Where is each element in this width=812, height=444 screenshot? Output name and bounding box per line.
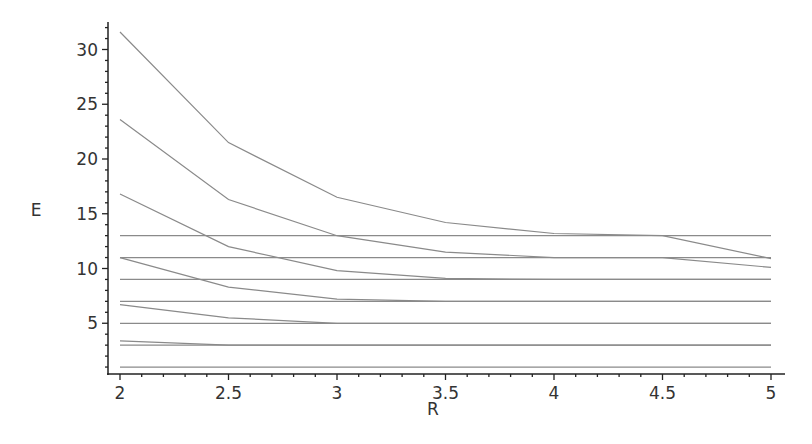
- x-ticks: 22.533.544.55: [115, 374, 777, 403]
- x-tick-label: 2.5: [215, 383, 242, 403]
- y-tick-label: 25: [76, 94, 98, 114]
- series-line-curve-3: [120, 194, 771, 279]
- y-tick-label: 15: [76, 204, 98, 224]
- y-tick-label: 30: [76, 40, 98, 60]
- axes: 51015202530 22.533.544.55: [76, 22, 785, 403]
- x-tick-label: 4: [549, 383, 560, 403]
- series-line-curve-2: [120, 120, 771, 268]
- x-tick-label: 3: [332, 383, 343, 403]
- y-ticks: 51015202530: [76, 28, 108, 367]
- series-line-curve-1: [120, 32, 771, 259]
- plot-lines: [120, 32, 771, 367]
- series-line-curve-6: [120, 341, 771, 345]
- y-tick-label: 20: [76, 149, 98, 169]
- x-axis-label: R: [427, 399, 439, 419]
- x-tick-label: 4.5: [649, 383, 676, 403]
- line-chart: 51015202530 22.533.544.55 R E: [0, 0, 812, 444]
- series-line-curve-5: [120, 305, 771, 324]
- y-axis-label: E: [31, 200, 42, 220]
- x-tick-label: 2: [115, 383, 126, 403]
- y-tick-label: 10: [76, 259, 98, 279]
- y-tick-label: 5: [87, 313, 98, 333]
- x-tick-label: 5: [766, 383, 777, 403]
